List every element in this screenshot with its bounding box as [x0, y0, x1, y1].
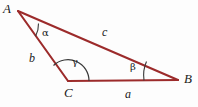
vertex-label-B: B	[184, 72, 192, 85]
angle-alpha-arc	[36, 24, 39, 37]
angle-label-alpha: α	[42, 28, 49, 38]
vertex-label-A: A	[3, 2, 11, 15]
side-a-line	[68, 80, 178, 81]
side-label-a: a	[125, 88, 131, 100]
angle-label-gamma: γ	[72, 57, 78, 67]
angle-label-beta: β	[130, 62, 136, 72]
side-label-c: c	[102, 26, 107, 38]
geometry-figure: A B C a b c α β γ	[0, 0, 198, 107]
side-label-b: b	[29, 52, 35, 64]
vertex-label-C: C	[64, 86, 73, 99]
